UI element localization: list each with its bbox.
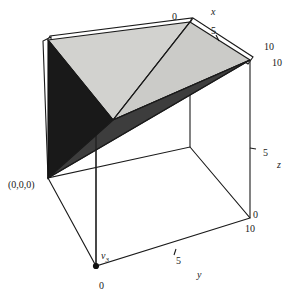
- axis-tick-x-5: 5: [211, 26, 216, 36]
- axis-tick-y-5: 5: [176, 256, 181, 266]
- vertex-label-v3-subscript: 3: [105, 256, 109, 264]
- plot-canvas: [0, 0, 296, 296]
- axis-tick-z-10: 10: [272, 58, 282, 68]
- axis-tick-z-5: 5: [263, 148, 268, 158]
- point-marker-v3: [93, 263, 99, 269]
- axis-tick-y-0: 0: [99, 281, 104, 291]
- axis-label-z: z: [277, 160, 281, 170]
- vertex-label-v3: v3: [101, 251, 109, 264]
- axis-label-y: y: [197, 270, 201, 280]
- axis-tick-x-0: 0: [172, 12, 177, 22]
- axis-tick-x-10: 10: [264, 42, 274, 52]
- figure-3d-plot: 0 x 5 10 10 5 z 0 10 5 y 0 (0,0,0) v3: [0, 0, 296, 296]
- axis-tick-z-0: 0: [253, 210, 258, 220]
- axis-label-x: x: [211, 7, 215, 17]
- axis-tick-y-10: 10: [245, 224, 255, 234]
- origin-label: (0,0,0): [8, 180, 35, 190]
